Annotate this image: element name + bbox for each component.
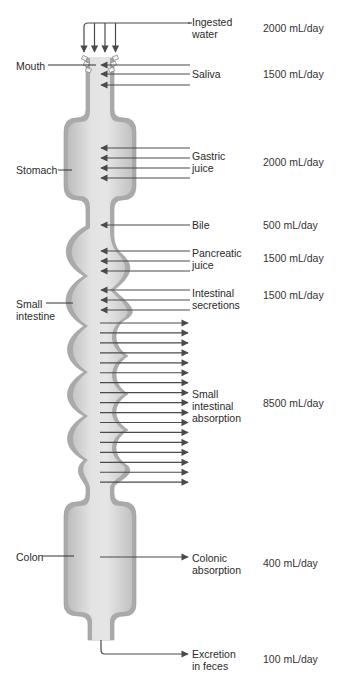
flow-value-pancreatic-juice: 1500 mL/day	[263, 252, 324, 264]
flow-value-saliva: 1500 mL/day	[263, 68, 324, 80]
flow-value-small-intestinal-absorption: 8500 mL/day	[263, 397, 324, 409]
tube-lumen	[68, 58, 132, 640]
organ-label-colon: Colon	[16, 551, 43, 563]
gi-tract-diagram	[0, 0, 338, 681]
flow-value-ingested-water: 2000 mL/day	[263, 22, 324, 34]
organ-label-stomach: Stomach	[16, 164, 57, 176]
flow-label-saliva: Saliva	[192, 68, 221, 80]
flow-label-pancreatic-juice: Pancreatic juice	[192, 247, 242, 271]
organ-label-mouth: Mouth	[16, 60, 45, 72]
flow-value-excretion-in-feces: 100 mL/day	[263, 653, 318, 665]
flow-label-gastric-juice: Gastric juice	[192, 150, 225, 174]
flow-label-bile: Bile	[192, 219, 210, 231]
flow-label-colonic-absorption: Colonic absorption	[192, 552, 241, 576]
flow-label-ingested-water: Ingested water	[192, 16, 232, 40]
flow-label-small-intestinal-absorption: Small intestinal absorption	[192, 388, 241, 424]
flow-value-colonic-absorption: 400 mL/day	[263, 557, 318, 569]
ingested-water-feed-line	[84, 23, 190, 27]
flow-value-bile: 500 mL/day	[263, 219, 318, 231]
flow-value-intestinal-secretions: 1500 mL/day	[263, 289, 324, 301]
flow-label-intestinal-secretions: Intestinal secretions	[192, 287, 240, 311]
excretion-arrow	[101, 640, 188, 654]
flow-label-excretion-in-feces: Excretion in feces	[192, 648, 236, 672]
organ-label-small-intestine: Small intestine	[16, 298, 55, 322]
flow-value-gastric-juice: 2000 mL/day	[263, 156, 324, 168]
gi-tube	[64, 55, 136, 640]
